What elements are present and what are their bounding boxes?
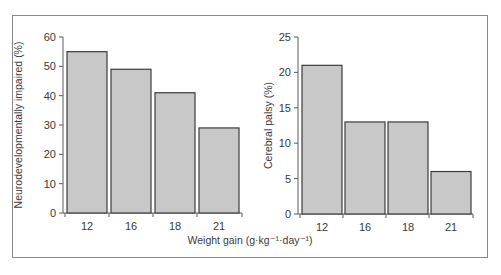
y-tick-label: 5 — [285, 173, 291, 185]
y-tick-label: 0 — [285, 208, 291, 220]
y-tick-label: 15 — [279, 102, 291, 114]
x-axis-title: Weight gain (g·kg⁻¹·day⁻¹) — [187, 234, 312, 246]
y-tick-label: 50 — [44, 60, 56, 72]
bar-21 — [199, 128, 239, 213]
y-axis-title: Cerebral palsy (%) — [262, 82, 274, 169]
x-tick-label: 16 — [359, 221, 371, 233]
x-tick-label: 18 — [169, 220, 181, 232]
y-tick-label: 60 — [44, 31, 56, 43]
y-tick-label: 0 — [50, 207, 56, 219]
x-tick-label: 12 — [316, 221, 328, 233]
y-tick-label: 25 — [279, 31, 291, 43]
y-tick-label: 20 — [44, 148, 56, 160]
chart-canvas: 010203040506012161821Neurodevelopmentall… — [0, 0, 501, 275]
y-tick-label: 10 — [279, 137, 291, 149]
bar-18 — [388, 122, 428, 214]
y-axis-title: Neurodevelopmentally impaired (%) — [12, 42, 24, 209]
x-tick-label: 18 — [402, 221, 414, 233]
chart-left: 010203040506012161821Neurodevelopmentall… — [12, 31, 242, 232]
y-tick-label: 40 — [44, 90, 56, 102]
bar-21 — [431, 172, 471, 214]
x-tick-label: 21 — [213, 220, 225, 232]
bar-18 — [155, 93, 195, 213]
y-tick-label: 20 — [279, 66, 291, 78]
bar-16 — [345, 122, 385, 214]
bar-12 — [67, 52, 107, 213]
x-tick-label: 16 — [125, 220, 137, 232]
x-tick-label: 12 — [81, 220, 93, 232]
bar-16 — [111, 69, 151, 213]
chart-right: 051015202512161821Cerebral palsy (%) — [262, 31, 473, 233]
bar-12 — [302, 65, 342, 214]
y-tick-label: 10 — [44, 178, 56, 190]
x-tick-label: 21 — [445, 221, 457, 233]
y-tick-label: 30 — [44, 119, 56, 131]
